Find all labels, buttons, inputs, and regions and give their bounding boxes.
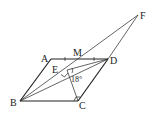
segment-DC bbox=[78, 59, 108, 101]
geometry-diagram: A D B C F M E 18° bbox=[0, 0, 149, 114]
angle-arc-E bbox=[72, 68, 73, 73]
label-E: E bbox=[52, 64, 58, 75]
label-F: F bbox=[140, 10, 146, 21]
label-C: C bbox=[79, 100, 86, 111]
segment-DF bbox=[108, 15, 138, 59]
angle-label: 18° bbox=[71, 75, 82, 84]
segment-BD bbox=[20, 59, 108, 101]
label-M: M bbox=[73, 47, 82, 58]
segment-BF bbox=[20, 15, 138, 101]
label-A: A bbox=[41, 53, 49, 64]
right-angle-marker-E bbox=[61, 73, 68, 77]
segment-AB bbox=[20, 59, 51, 101]
label-D: D bbox=[110, 55, 117, 66]
label-B: B bbox=[10, 97, 17, 108]
